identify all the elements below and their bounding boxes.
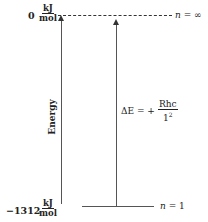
level-n-1-label: n = 1: [160, 201, 185, 211]
level-n-infinity-label: n = ∞: [175, 10, 202, 20]
transition-arrow-line: [116, 22, 117, 206]
level-top-value: 0: [28, 10, 35, 21]
energy-axis-arrow-icon: [58, 15, 64, 21]
level-n-1-line: [82, 206, 154, 207]
delta-e-formula: ΔE = + Rhc 12: [121, 99, 178, 123]
transition-arrow-icon: [113, 19, 119, 25]
level-n-infinity-line: [58, 15, 172, 16]
level-bottom-unit: kJ mol: [39, 199, 57, 218]
level-top-unit: kJ mol: [39, 4, 57, 23]
energy-axis-label: Energy: [47, 99, 57, 135]
level-bottom-value: −1312: [6, 205, 40, 216]
energy-axis-line: [61, 18, 62, 204]
